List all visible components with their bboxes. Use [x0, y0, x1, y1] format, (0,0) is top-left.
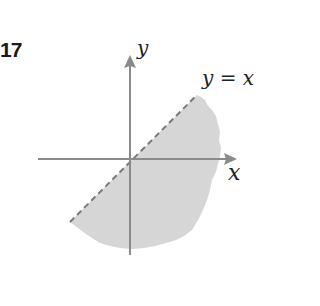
boundary-equation-label: y = x: [202, 66, 254, 90]
y-axis-label: y: [137, 36, 148, 60]
x-axis-label: x: [228, 160, 240, 185]
shaded-region: [70, 95, 221, 249]
